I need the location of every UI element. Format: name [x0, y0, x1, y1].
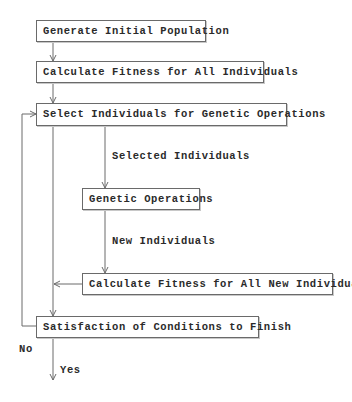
- select-individuals-node: Select Individuals for Genetic Operation…: [36, 103, 287, 126]
- flowchart: Generate Initial Population Calculate Fi…: [0, 0, 352, 402]
- yes-label: Yes: [60, 364, 81, 376]
- satisfaction-conditions-node: Satisfaction of Conditions to Finish: [36, 316, 259, 338]
- genetic-operations-node: Genetic Operations: [82, 188, 200, 210]
- calculate-fitness-all-node: Calculate Fitness for All Individuals: [36, 61, 264, 83]
- no-label: No: [19, 343, 33, 355]
- calculate-fitness-new-node: Calculate Fitness for All New Individual…: [82, 273, 333, 295]
- new-individuals-label: New Individuals: [112, 235, 216, 247]
- selected-individuals-label: Selected Individuals: [112, 150, 250, 162]
- generate-initial-population-node: Generate Initial Population: [36, 20, 206, 42]
